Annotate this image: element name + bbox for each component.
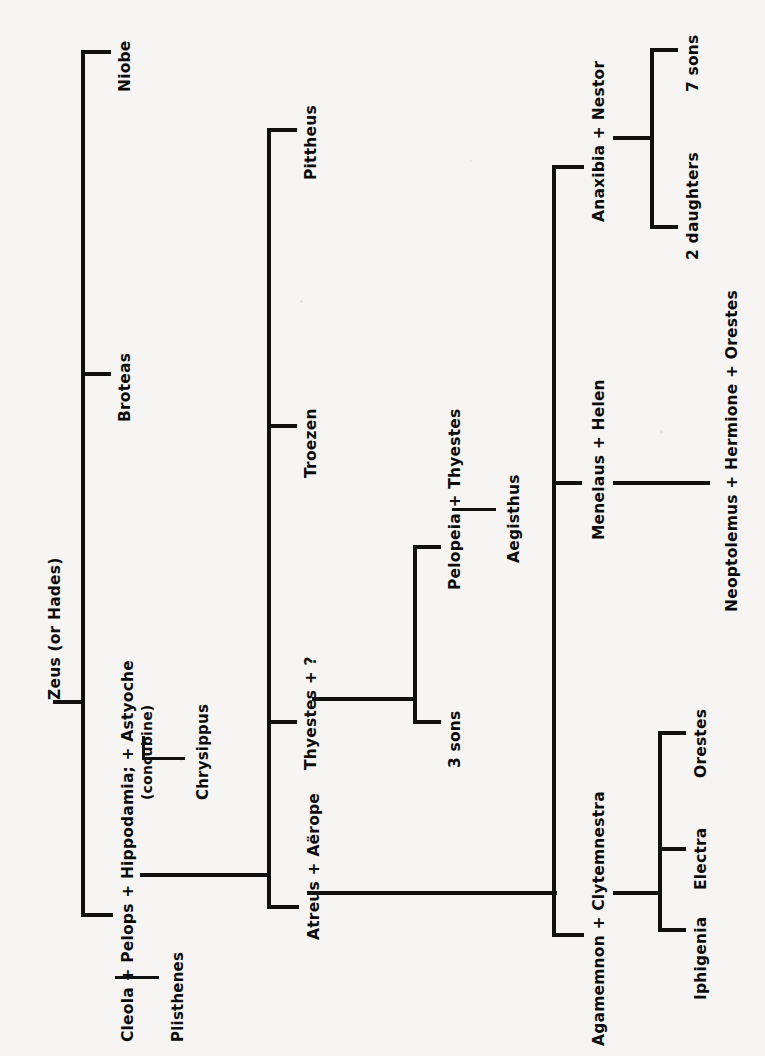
node-seven-sons: 7 sons (686, 34, 702, 92)
node-broteas: Broteas (118, 353, 134, 422)
node-chrysippus: Chrysippus (196, 704, 211, 800)
trunk-line-pelops-children (267, 128, 271, 908)
branch-line-plisthenes (115, 976, 159, 979)
node-anaxibia-union: Anaxibia + Nestor (592, 61, 608, 222)
branch-line-thyestes (267, 720, 297, 724)
node-two-daughters: 2 daughters (686, 152, 702, 260)
branch-line-niobe (81, 50, 111, 54)
branch-line-orestes (658, 731, 686, 735)
branch-line-pittheus (267, 128, 297, 132)
bracket-agamemnon-children (658, 731, 662, 931)
node-neoptolemus-union: Neoptolemus + Hermione + Orestes (725, 290, 741, 612)
node-pelops-union: Cleola + Pelops + Hippodamia; + Astyoche (121, 660, 137, 1042)
branch-line-anaxibia (552, 165, 584, 169)
node-plisthenes: Plisthenes (171, 952, 186, 1042)
node-thyestes-union: Thyestes + ? (304, 656, 320, 770)
node-atreus-union: Atreus + Aërope (307, 793, 323, 940)
node-electra: Electra (694, 827, 710, 890)
branch-line-iphigenia (658, 928, 686, 932)
branch-line-three-sons (413, 720, 441, 724)
paper-speck (300, 300, 303, 303)
branch-line-agamemnon (552, 933, 584, 937)
bracket-thyestes-children (413, 545, 417, 723)
trunk-line-atreus-children (552, 165, 556, 933)
connector-atreus-to-agamemnon (307, 891, 557, 895)
node-pittheus: Pittheus (304, 105, 320, 180)
branch-line-pelopeia (413, 545, 441, 549)
branch-line-troezen (267, 424, 297, 428)
node-three-sons: 3 sons (448, 710, 464, 768)
bracket-nestor-children (650, 48, 654, 228)
connector-pelops-to-atreus (140, 873, 270, 877)
branch-line-atreus (267, 905, 299, 909)
branch-line-menelaus (552, 481, 582, 485)
connector-helen-children (613, 481, 710, 485)
branch-line-two-daughters (650, 225, 678, 229)
family-tree-diagram: Niobe Broteas Zeus (or Hades) Cleola + P… (0, 0, 765, 1056)
node-agamemnon-union: Agamemnon + Clytemnestra (592, 791, 608, 1046)
branch-line-broteas (81, 372, 111, 376)
branch-line-electra (658, 847, 686, 851)
branch-line-chrysippus (142, 757, 185, 760)
paper-speck (470, 160, 472, 162)
paper-speck (660, 430, 663, 433)
node-niobe: Niobe (118, 40, 134, 92)
paper-speck (180, 760, 182, 762)
branch-line-zeus (53, 700, 83, 704)
node-iphigenia: Iphigenia (694, 917, 710, 1000)
node-menelaus-union: Menelaus + Helen (592, 379, 608, 540)
node-pelopeia-union: Pelopeia + Thyestes (448, 409, 464, 590)
trunk-line-zeus (81, 50, 85, 917)
branch-line-aegisthus (452, 508, 496, 511)
connector-nestor-children (613, 136, 653, 140)
branch-line-seven-sons (650, 48, 678, 52)
node-orestes: Orestes (694, 709, 710, 778)
connector-agamemnon-children (613, 891, 661, 895)
node-zeus: Zeus (or Hades) (48, 557, 64, 700)
branch-line-pelops (81, 913, 113, 917)
node-troezen: Troezen (304, 408, 320, 478)
connector-thyestes-children (312, 697, 416, 701)
node-aegisthus: Aegisthus (507, 474, 523, 563)
